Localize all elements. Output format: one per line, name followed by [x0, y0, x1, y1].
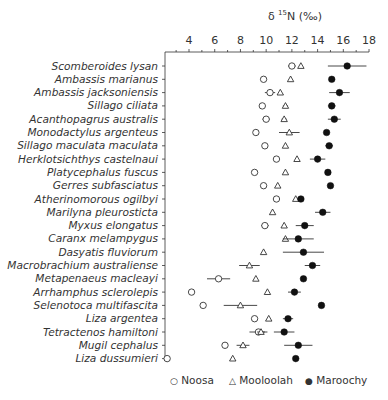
maroochy-point [301, 222, 308, 229]
mooloolah-point [260, 249, 266, 255]
species-labels: Scomberoides lysanAmbassis marianusAmbas… [0, 0, 158, 400]
maroochy-point [295, 236, 302, 243]
legend-item-mooloolah: △ Mooloolah [229, 374, 293, 386]
mooloolah-point [282, 103, 288, 109]
noosa-point [273, 156, 279, 162]
maroochy-point [331, 116, 338, 123]
mooloolah-point [281, 222, 287, 228]
x-tick-label: 18 [362, 34, 376, 47]
mooloolah-point [264, 289, 270, 295]
noosa-point [259, 103, 265, 109]
species-label: Gerres subfasciatus [53, 179, 158, 191]
filled-circle-icon: ● [305, 376, 313, 386]
maroochy-point [309, 262, 316, 269]
species-label: Tetractenos hamiltoni [43, 326, 158, 338]
species-label: Sillago maculata maculata [17, 139, 158, 151]
maroochy-point [291, 289, 298, 296]
x-tick-label: 6 [211, 34, 218, 47]
species-label: Monodactylus argenteus [27, 126, 158, 138]
maroochy-point [328, 103, 335, 110]
noosa-point [188, 289, 194, 295]
mooloolah-point [282, 169, 288, 175]
isotope-dot-plot: δ 15N (‰) 4681012141618 Scomberoides lys… [0, 0, 388, 400]
species-label: Atherinomorous ogilbyi [35, 193, 158, 205]
maroochy-point [325, 169, 332, 176]
maroochy-point [300, 249, 307, 256]
maroochy-point [344, 63, 351, 70]
mooloolah-point [282, 143, 288, 149]
noosa-point [215, 276, 221, 282]
legend-item-noosa: ○ Noosa [170, 374, 214, 386]
maroochy-point [328, 76, 335, 83]
noosa-point [200, 302, 206, 308]
mooloolah-point [277, 89, 283, 95]
noosa-point [273, 196, 279, 202]
noosa-point [260, 76, 266, 82]
x-tick-label: 14 [311, 34, 325, 47]
noosa-point [253, 129, 259, 135]
mooloolah-point [298, 63, 304, 69]
mooloolah-point [287, 76, 293, 82]
species-label: Mugil cephalus [79, 339, 158, 351]
noosa-point [263, 116, 269, 122]
mooloolah-point [294, 156, 300, 162]
open-circle-icon: ○ [170, 376, 178, 386]
mooloolah-point [275, 182, 281, 188]
noosa-point [164, 355, 170, 361]
species-label: Caranx melampygus [48, 232, 158, 244]
maroochy-point [285, 315, 292, 322]
x-tick-label: 10 [259, 34, 273, 47]
species-label: Herklotsichthys castelnaui [18, 153, 158, 165]
noosa-point [262, 143, 268, 149]
legend-label: Noosa [181, 374, 214, 386]
mooloolah-point [286, 129, 292, 135]
maroochy-point [319, 209, 326, 216]
maroochy-point [295, 342, 302, 349]
noosa-point [222, 342, 228, 348]
x-tick-label: 16 [336, 34, 350, 47]
species-label: Ambassis marianus [55, 73, 158, 85]
maroochy-point [314, 156, 321, 163]
maroochy-point [281, 329, 288, 336]
legend-item-maroochy: ● Maroochy [305, 374, 367, 386]
mooloolah-point [253, 276, 259, 282]
noosa-point [289, 63, 295, 69]
species-label: Dasyatis fluviorum [58, 246, 158, 258]
species-label: Metapenaeus macleayi [35, 272, 158, 284]
noosa-point [260, 183, 266, 189]
maroochy-point [327, 182, 334, 189]
mooloolah-point [266, 315, 272, 321]
maroochy-point [318, 302, 325, 309]
maroochy-point [298, 196, 305, 203]
species-label: Marilyna pleurosticta [46, 206, 158, 218]
species-label: Macrobrachium australiense [7, 259, 158, 271]
maroochy-point [292, 355, 299, 362]
species-label: Selenotoca multifascita [34, 299, 158, 311]
open-triangle-icon: △ [229, 376, 236, 386]
species-label: Acanthopagrus australis [29, 113, 158, 125]
maroochy-point [323, 129, 330, 136]
maroochy-point [300, 276, 307, 283]
species-label: Platycephalus fuscus [47, 166, 158, 178]
x-tick-label: 4 [186, 34, 193, 47]
species-label: Scomberoides lysan [52, 60, 158, 72]
legend-label: Mooloolah [239, 374, 293, 386]
maroochy-point [326, 143, 333, 150]
noosa-point [251, 169, 257, 175]
species-label: Myxus elongatus [68, 219, 158, 231]
legend-label: Maroochy [316, 374, 367, 386]
species-label: Sillago ciliata [88, 99, 158, 111]
noosa-point [267, 89, 273, 95]
noosa-point [251, 316, 257, 322]
species-label: Ambassis jacksoniensis [34, 86, 158, 98]
maroochy-point [336, 89, 343, 96]
noosa-point [262, 222, 268, 228]
mooloolah-point [230, 355, 236, 361]
species-label: Liza dussumieri [75, 352, 158, 364]
species-label: Arrhamphus sclerolepis [33, 286, 158, 298]
species-label: Liza argentea [86, 312, 158, 324]
x-tick-label: 12 [285, 34, 299, 47]
x-tick-label: 8 [237, 34, 244, 47]
mooloolah-point [269, 209, 275, 215]
